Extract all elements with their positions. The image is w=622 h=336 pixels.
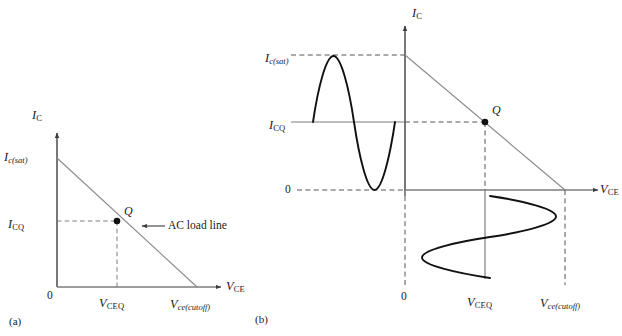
panel-b-q-label: Q xyxy=(492,104,501,116)
panel-a-tick-vce-cutoff: Vce(cutoff) xyxy=(170,295,210,312)
panel-a-x-axis-label: VCE xyxy=(226,277,245,294)
panel-b-tag: (b) xyxy=(255,314,268,325)
panel-b-x-axis-label: VCE xyxy=(600,180,619,197)
panel-a-tag: (a) xyxy=(9,316,21,327)
panel-a-tick-ic-sat: Ic(sat) xyxy=(4,148,28,165)
panel-b-ic-waveform xyxy=(313,56,395,190)
panel-a-graph xyxy=(57,133,221,287)
figure-root: IC VCE 0 Ic(sat) ICQ VCEQ Vce(cutoff) Q … xyxy=(0,0,622,336)
panel-b-tick-vceq: VCEQ xyxy=(467,293,492,310)
panel-b-tick-zero-left: 0 xyxy=(285,184,291,196)
panel-b-tick-icq: ICQ xyxy=(269,116,285,133)
panel-b-graph xyxy=(291,26,598,285)
panel-b-vce-waveform xyxy=(422,196,556,278)
figure-svg xyxy=(0,0,622,336)
panel-a-q-label: Q xyxy=(124,205,133,217)
panel-a-tick-vceq: VCEQ xyxy=(99,294,124,311)
panel-b-q-point xyxy=(482,119,489,126)
panel-b-tick-vce-cutoff: Vce(cutoff) xyxy=(540,294,580,311)
panel-a-ac-load-line-annotation: AC load line xyxy=(168,220,227,232)
panel-b-tick-ic-sat: Ic(sat) xyxy=(265,49,289,66)
panel-a-q-point xyxy=(114,218,121,225)
panel-a-y-axis-label: IC xyxy=(32,106,42,123)
panel-b-y-axis-label: IC xyxy=(412,4,422,21)
panel-a-tick-icq: ICQ xyxy=(8,215,24,232)
panel-a-origin-label: 0 xyxy=(47,290,53,302)
panel-b-tick-zero-bottom: 0 xyxy=(401,291,407,303)
